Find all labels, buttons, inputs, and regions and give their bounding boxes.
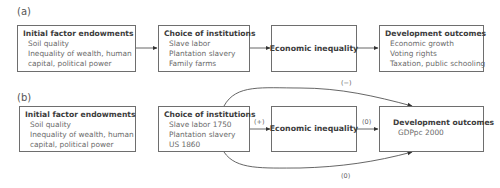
box-item: Plantation slavery	[164, 130, 249, 140]
box-item: Slave labor 1750	[164, 120, 249, 130]
box-item: US 1860	[164, 140, 249, 150]
panel-label-b: (b)	[17, 92, 31, 103]
box-title: Choice of institutions	[164, 29, 249, 39]
edge-label-bottom-curve: (0)	[341, 172, 350, 180]
box-a-development-outcomes: Development outcomes Economic growth Vot…	[379, 25, 484, 72]
box-title: Initial factor endowments	[25, 110, 135, 120]
box-item: Plantation slavery	[164, 49, 249, 59]
box-b-economic-inequality: Economic inequality	[271, 106, 357, 152]
box-item: Economic growth	[385, 39, 483, 49]
edge-label-inequality-outcomes: (0)	[362, 118, 371, 126]
box-item: Inequality of wealth, human	[25, 130, 135, 140]
box-title: Economic inequality	[270, 124, 358, 134]
box-b-development-outcomes: Development outcomes GDPpc 2000	[379, 106, 484, 152]
box-item: capital, political power	[25, 140, 135, 150]
box-a-initial-factor-endowments: Initial factor endowments Soil quality I…	[17, 25, 136, 72]
box-item: Voting rights	[385, 49, 483, 59]
edge-label-institutions-inequality: (+)	[254, 118, 265, 126]
box-a-choice-of-institutions: Choice of institutions Slave labor Plant…	[158, 25, 250, 72]
box-item: capital, political power	[23, 59, 135, 69]
box-title: Development outcomes	[385, 29, 483, 39]
box-item: Soil quality	[25, 120, 135, 130]
box-title: Choice of institutions	[164, 110, 249, 120]
box-title: Development outcomes	[393, 118, 483, 128]
box-a-economic-inequality: Economic inequality	[271, 25, 357, 72]
panel-label-a: (a)	[17, 6, 31, 17]
box-item: Slave labor	[164, 39, 249, 49]
box-b-initial-factor-endowments: Initial factor endowments Soil quality I…	[19, 106, 136, 152]
box-item: Taxation, public schooling	[385, 59, 483, 69]
box-title: Economic inequality	[270, 44, 358, 54]
box-title: Initial factor endowments	[23, 29, 135, 39]
box-item: Family farms	[164, 59, 249, 69]
box-item: Soil quality	[23, 39, 135, 49]
arrow-b-institutions-to-outcomes-top	[224, 88, 412, 106]
box-item: Inequality of wealth, human	[23, 49, 135, 59]
arrow-b-institutions-to-outcomes-bottom	[224, 152, 412, 168]
box-item: GDPpc 2000	[393, 128, 483, 138]
edge-label-top-curve: (−)	[341, 79, 352, 87]
box-b-choice-of-institutions: Choice of institutions Slave labor 1750 …	[158, 106, 250, 152]
